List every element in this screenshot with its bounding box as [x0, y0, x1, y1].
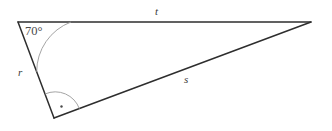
- triangle-diagram: t r s 70°: [0, 0, 332, 131]
- side-label-t: t: [155, 6, 158, 17]
- right-angle-dot: [60, 105, 62, 107]
- angle-label-70-degrees: 70°: [25, 25, 43, 38]
- side-s-line: [54, 22, 311, 118]
- side-label-s: s: [184, 74, 188, 85]
- triangle-drawing: [0, 0, 332, 131]
- side-label-r: r: [18, 67, 22, 78]
